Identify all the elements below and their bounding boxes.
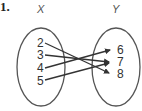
domain-set-label: X — [36, 3, 45, 15]
domain-element-5: 5 — [37, 74, 44, 88]
range-element-8: 8 — [117, 67, 124, 81]
domain-element-4: 4 — [37, 61, 44, 75]
mapping-diagram: 1. X Y 2 3 4 5 6 7 8 — [0, 0, 142, 111]
range-set-label: Y — [112, 3, 120, 15]
problem-number: 1. — [0, 0, 10, 14]
range-set-oval — [92, 28, 140, 106]
domain-element-3: 3 — [37, 48, 44, 62]
